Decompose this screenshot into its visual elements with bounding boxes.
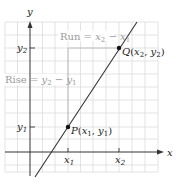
x-axis-label: x <box>167 147 173 158</box>
guide-lines <box>5 22 158 172</box>
point-p <box>66 125 70 129</box>
y-axis-label: y <box>26 6 33 17</box>
grid <box>5 22 158 172</box>
rise-annotation: Rise = y2 − y1 <box>5 74 77 87</box>
slope-diagram: y x y2 y1 x1 x2 Q(x2, y2) P(x1, y1) Run … <box>0 0 176 191</box>
point-q <box>117 46 121 50</box>
run-annotation: Run = x2 − x1 <box>60 31 130 44</box>
x-axis-arrow-icon <box>157 150 164 155</box>
